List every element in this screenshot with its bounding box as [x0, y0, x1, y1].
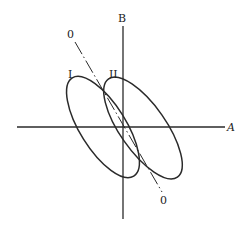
ellipse-ii — [90, 66, 197, 191]
label-ellipse-i: I — [68, 68, 72, 81]
label-vertical-axis: B — [118, 12, 126, 25]
label-horizontal-axis: A — [226, 121, 235, 134]
diagram-svg: B A 0 0 I II — [0, 0, 248, 229]
label-ellipse-ii: II — [109, 68, 118, 81]
diagonal-line-0-0 — [75, 42, 162, 192]
label-line-bottom: 0 — [160, 194, 167, 207]
label-line-top: 0 — [67, 28, 74, 41]
diagram-canvas: B A 0 0 I II — [0, 0, 248, 229]
